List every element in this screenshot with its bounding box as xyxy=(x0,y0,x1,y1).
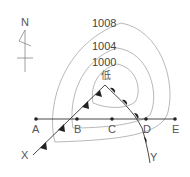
point-label-a: A xyxy=(32,124,39,135)
cold-front xyxy=(33,85,105,155)
point-label-b: B xyxy=(74,124,81,135)
isobar-label-1008: 1008 xyxy=(92,18,116,29)
point-label-c: C xyxy=(108,124,116,135)
front-end-label-y: Y xyxy=(150,152,157,163)
isobar-label-1000: 1000 xyxy=(92,57,116,68)
isobar-1000 xyxy=(92,64,138,107)
low-pressure-label: 低 xyxy=(101,71,111,81)
compass-north-label: N xyxy=(21,17,29,28)
cross-section-line xyxy=(34,117,177,121)
point-label-e: E xyxy=(172,124,179,135)
compass-icon xyxy=(17,30,33,72)
point-label-d: D xyxy=(143,124,151,135)
front-end-label-x: X xyxy=(21,150,28,161)
isobar-label-1004: 1004 xyxy=(92,41,116,52)
